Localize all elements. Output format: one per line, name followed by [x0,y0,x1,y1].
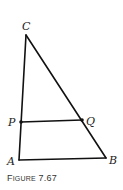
label-p: P [7,116,16,129]
triangle-diagram: C P Q A B [0,0,123,190]
segment-pq [21,120,82,122]
point-p-dot [19,120,23,124]
label-q: Q [86,115,95,128]
caption-smallcaps: IGURE [13,175,36,182]
figure-caption: FIGURE 7.67 [7,173,57,183]
point-q-dot [80,118,84,122]
label-a: A [6,155,15,168]
segment-ab [19,158,106,160]
label-b: B [108,154,117,167]
segment-cb [26,35,106,158]
segment-ca [19,35,26,160]
label-c: C [22,20,31,33]
caption-number: 7.67 [39,173,57,183]
